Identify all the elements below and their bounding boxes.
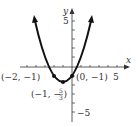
point-vertex bbox=[61, 80, 65, 84]
svg-text:(−1, −: (−1, − bbox=[31, 89, 61, 99]
point-neg2-neg1 bbox=[52, 74, 56, 78]
point-label-left: (−2, −1) bbox=[1, 72, 40, 82]
svg-text:3: 3 bbox=[59, 94, 63, 101]
y-tick-label-neg5: −5 bbox=[77, 108, 91, 118]
svg-text:): ) bbox=[64, 89, 68, 99]
y-ticks bbox=[72, 21, 75, 112]
y-tick-label-5: 5 bbox=[63, 16, 69, 26]
curve-arrow-left-icon bbox=[32, 15, 38, 23]
curve-arrow-right-icon bbox=[88, 15, 94, 23]
point-label-right: (0, −1) bbox=[76, 72, 108, 82]
y-axis-label: y bbox=[62, 6, 69, 16]
vertex-label: (−1, − 5 3 ) bbox=[31, 87, 67, 101]
x-axis-label: x bbox=[126, 55, 131, 65]
x-axis-arrow-icon bbox=[124, 65, 130, 70]
parabola-graph: x y 5 5 −5 (−2, −1) (0, −1) (−1, − 5 3 ) bbox=[0, 0, 138, 127]
point-0-neg1 bbox=[70, 74, 74, 78]
x-tick-label-5: 5 bbox=[113, 72, 119, 82]
svg-text:5: 5 bbox=[59, 87, 63, 94]
y-axis-arrow-icon bbox=[70, 8, 75, 14]
